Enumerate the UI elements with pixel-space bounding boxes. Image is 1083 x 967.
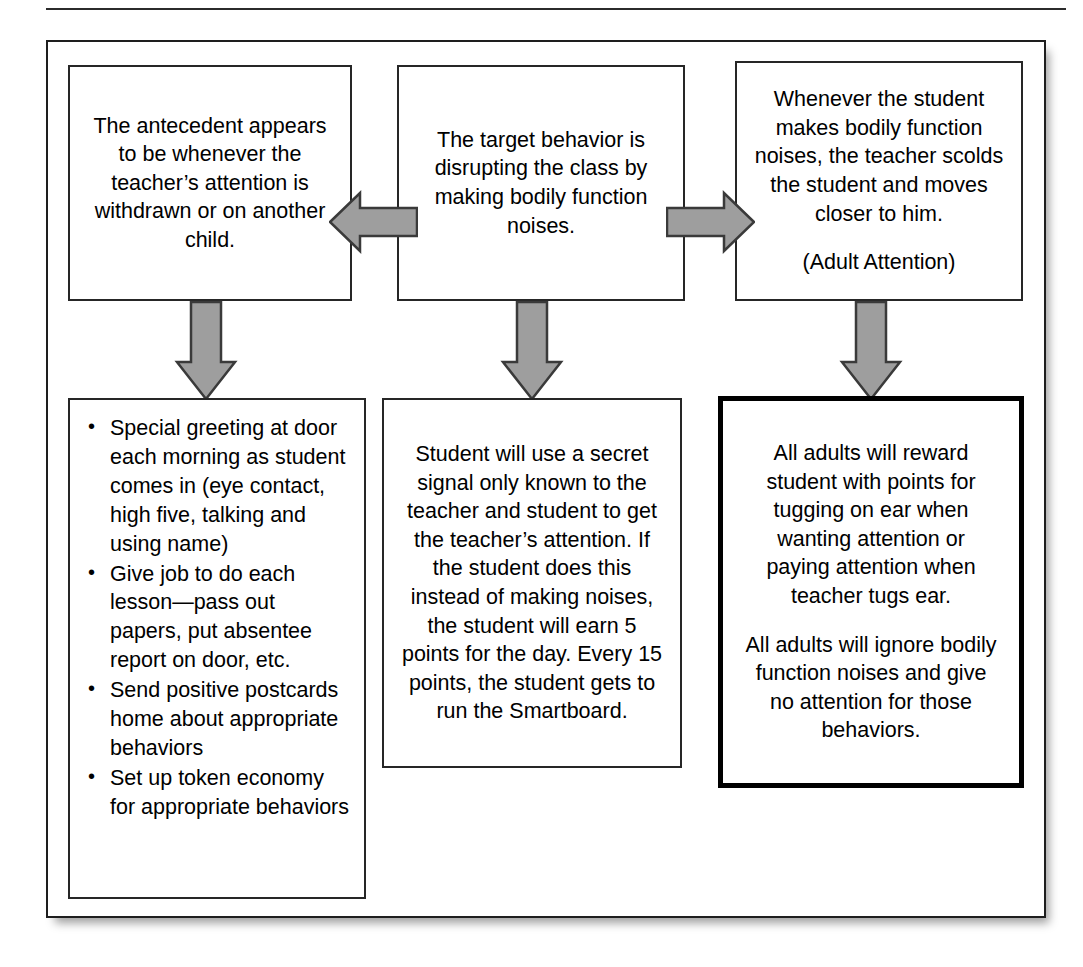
- arrow-down-icon: [500, 300, 564, 400]
- arrow-left-icon: [329, 189, 418, 255]
- antecedent-text: The antecedent appears to be whenever th…: [82, 112, 338, 255]
- antecedent-strategies-list: Special greeting at door each morning as…: [78, 414, 350, 823]
- list-item: Set up token economy for appropriate beh…: [108, 764, 350, 822]
- list-item: Give job to do each lesson—pass out pape…: [108, 560, 350, 676]
- arrow-down-icon: [839, 300, 903, 400]
- arrow-down-icon: [174, 300, 238, 400]
- target-behavior-text: The target behavior is disrupting the cl…: [411, 126, 671, 240]
- consequence-note: (Adult Attention): [803, 248, 956, 277]
- diagram-frame: The antecedent appears to be whenever th…: [46, 40, 1046, 918]
- target-behavior-box: The target behavior is disrupting the cl…: [397, 65, 685, 301]
- antecedent-box: The antecedent appears to be whenever th…: [68, 65, 352, 301]
- consequence-strategies-paragraph-2: All adults will ignore bodily function n…: [743, 631, 999, 745]
- replacement-behavior-text: Student will use a secret signal only kn…: [398, 440, 666, 726]
- list-item: Special greeting at door each morning as…: [108, 414, 350, 559]
- list-item: Send positive postcards home about appro…: [108, 676, 350, 763]
- arrow-right-icon: [666, 189, 755, 255]
- page-header-rule: [46, 8, 1066, 10]
- antecedent-strategies-box: Special greeting at door each morning as…: [68, 398, 366, 899]
- consequence-text: Whenever the student makes bodily functi…: [749, 85, 1009, 228]
- consequence-strategies-box: All adults will reward student with poin…: [718, 396, 1024, 788]
- consequence-strategies-paragraph-1: All adults will reward student with poin…: [743, 439, 999, 611]
- consequence-box: Whenever the student makes bodily functi…: [735, 61, 1023, 301]
- replacement-behavior-box: Student will use a secret signal only kn…: [382, 398, 682, 768]
